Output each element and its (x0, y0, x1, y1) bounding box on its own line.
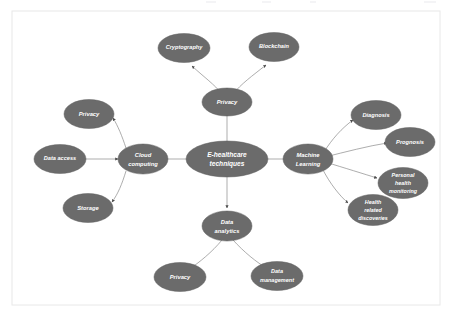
node-privacy-analytics[interactable]: Privacy (154, 263, 206, 292)
node-cloud-computing[interactable]: Cloud computing (118, 144, 168, 174)
node-prognosis[interactable]: Prognosis (385, 128, 435, 157)
node-privacy-top[interactable]: Privacy (202, 88, 252, 116)
top-edge-artifacts (206, 1, 436, 3)
node-blockchain[interactable]: Blockchain (249, 33, 299, 62)
node-privacy-cloud[interactable]: Privacy (64, 100, 114, 129)
node-health-related-discoveries[interactable]: Health related discoveries (348, 195, 398, 226)
node-data-management[interactable]: Data management (251, 262, 303, 291)
node-cryptography[interactable]: Cryptography (158, 34, 210, 63)
concept-map-canvas: E-healthcare techniques Privacy Cryptogr… (0, 0, 454, 324)
node-storage[interactable]: Storage (63, 194, 113, 223)
node-data-analytics[interactable]: Data analytics (202, 211, 252, 241)
node-machine-learning[interactable]: Machine Learning (283, 144, 333, 174)
node-personal-health-monitoring[interactable]: Personal health monitoring (378, 168, 428, 199)
node-diagnosis[interactable]: Diagnosis (351, 101, 401, 130)
node-data-access[interactable]: Data access (34, 145, 86, 174)
concept-map-figure: E-healthcare techniques Privacy Cryptogr… (0, 0, 454, 324)
node-e-healthcare-techniques[interactable]: E-healthcare techniques (186, 141, 268, 177)
